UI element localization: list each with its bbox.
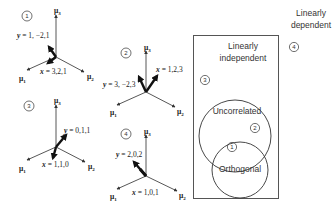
y-vector	[49, 47, 56, 57]
x-vector-label: x = 1,0,1	[131, 188, 159, 197]
marker-2: 2	[121, 48, 131, 58]
x-vector-label: x = 1,2,3	[155, 65, 183, 74]
y-vector-label: y = 2,0,2	[115, 150, 143, 159]
mu2-label: μ2	[179, 191, 186, 201]
marker-independent-3: 3	[200, 75, 209, 84]
y-vector-label: y = 0,1,1	[63, 126, 91, 135]
mu1-label: μ1	[19, 74, 26, 84]
marker-uncorrelated-2: 2	[250, 123, 259, 132]
linearly-independent-label-line2: independent	[220, 53, 267, 63]
svg-text:1: 1	[230, 144, 234, 150]
linearly-dependent-label-line2: dependent	[291, 20, 332, 30]
mu3-label: μ3	[144, 127, 151, 137]
diagram-3: 3 μ3 μ1 μ2 y = 0,1,1 x = 1,1,0	[19, 96, 95, 174]
mu2-label: μ2	[177, 107, 184, 117]
mu1-label: μ1	[19, 164, 26, 174]
x-vector-label: x = 3,2,1	[39, 67, 67, 76]
svg-text:3: 3	[27, 103, 31, 109]
uncorrelated-label: Uncorrelated	[213, 106, 262, 116]
venn-diagram: Linearly dependent 4 Linearly independen…	[194, 8, 332, 199]
mu2-label: μ2	[87, 72, 94, 82]
mu3-label: μ3	[54, 6, 61, 16]
x-vector	[140, 169, 146, 176]
orthogonal-label: Orthogonal	[219, 164, 261, 174]
mu1-axis	[117, 92, 146, 105]
x-vector	[53, 147, 56, 158]
marker-3: 3	[24, 101, 34, 111]
svg-text:1: 1	[25, 13, 29, 19]
diagram-4: 4 μ3 μ1 μ2 y = 2,0,2 x = 1,0,1	[110, 127, 186, 202]
diagram-1: 1 μ3 μ1 μ2 y = 1, −2,1 x = 3,2,1	[16, 6, 94, 84]
marker-dependent-4: 4	[289, 42, 298, 51]
mu1-label: μ1	[110, 108, 117, 118]
svg-text:4: 4	[124, 131, 128, 137]
y-vector	[139, 77, 146, 92]
mu2-axis	[146, 92, 175, 107]
svg-text:4: 4	[292, 44, 296, 50]
svg-text:2: 2	[253, 125, 257, 131]
svg-text:2: 2	[124, 50, 128, 56]
mu1-label: μ1	[110, 192, 117, 202]
x-vector-label: x = 1,1,0	[41, 160, 69, 169]
mu2-label: μ2	[88, 162, 95, 172]
marker-4: 4	[121, 129, 131, 139]
mu1-axis	[27, 147, 56, 160]
vector-relations-diagram: 1 μ3 μ1 μ2 y = 1, −2,1 x = 3,2,1 3 μ3 μ1…	[0, 0, 336, 215]
y-vector-label: y = 1, −2,1	[16, 31, 50, 40]
y-vector	[56, 135, 66, 147]
diagram-2: 2 μ3 μ1 μ2 y = 3, −2,3 x = 1,2,3	[102, 43, 184, 118]
mu3-label: μ3	[54, 96, 61, 106]
linearly-independent-label-line1: Linearly	[228, 41, 259, 51]
svg-text:3: 3	[203, 77, 207, 83]
marker-intersection-1: 1	[227, 142, 236, 151]
linearly-dependent-label-line1: Linearly	[296, 8, 327, 18]
marker-1: 1	[22, 11, 32, 21]
y-vector-label: y = 3, −2,3	[102, 80, 136, 89]
x-vector	[146, 76, 157, 92]
mu3-label: μ3	[144, 43, 151, 53]
